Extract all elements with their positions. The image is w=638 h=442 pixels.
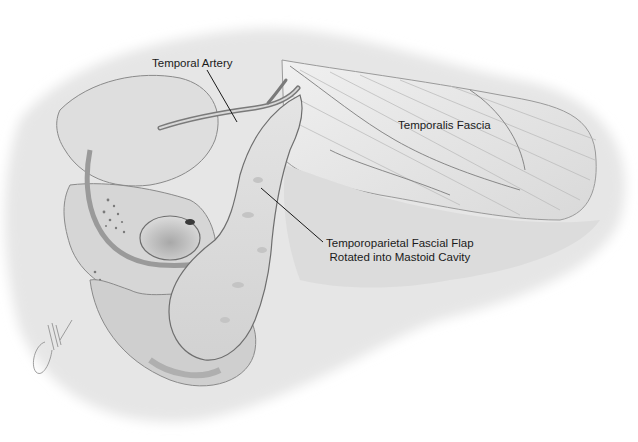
illustration: Temporal Artery Temporalis Fascia Tempor… [0, 0, 638, 442]
anatomy-drawing [0, 0, 638, 442]
label-flap: Temporoparietal Fascial Flap Rotated int… [326, 236, 474, 264]
label-temporal-artery: Temporal Artery [152, 56, 233, 70]
label-temporalis-fascia: Temporalis Fascia [398, 118, 491, 132]
label-flap-line-1: Temporoparietal Fascial Flap [326, 236, 474, 250]
cavity-opening [185, 219, 195, 225]
label-flap-line-2: Rotated into Mastoid Cavity [326, 250, 474, 264]
